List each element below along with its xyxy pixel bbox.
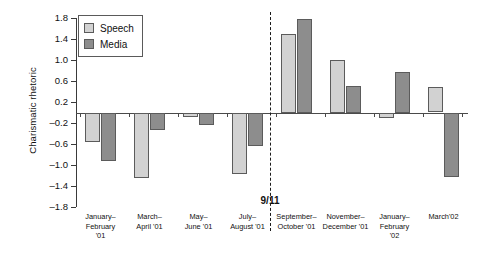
bar-speech-2 [183,113,198,117]
legend: Speech Media [78,15,143,57]
y-axis-tick: –0.6 [71,144,76,145]
y-axis-tick: 1.4 [71,39,76,40]
charismatic-rhetoric-bar-chart: Charismatic rhetoric 1.81.41.00.60.2–0.2… [0,0,478,265]
bar-media-7 [444,113,459,177]
x-axis-tick [227,113,228,117]
y-axis-tick: –1.4 [71,186,76,187]
y-axis-tick-label: –0.6 [50,138,69,149]
event-marker-label-911: 9/11 [261,195,280,206]
x-axis-tick [325,113,326,117]
x-axis-tick [462,113,463,117]
y-axis-tick: 1.0 [71,60,76,61]
y-axis-tick-label: 1.0 [55,54,68,65]
legend-label-media: Media [100,39,127,50]
y-axis-tick-label: 1.8 [55,12,68,23]
bar-speech-3 [232,113,247,175]
y-axis-tick-label: 0.2 [55,96,68,107]
bar-speech-4 [281,34,296,113]
bar-media-1 [150,113,165,130]
legend-item-media: Media [84,36,134,52]
y-axis-tick: –1.8 [71,207,76,208]
bar-speech-6 [379,113,394,118]
y-axis-tick-label: –1.0 [50,159,69,170]
x-axis-tick [276,113,277,117]
y-axis-tick-label: –1.4 [50,180,69,191]
y-axis-tick-label: 1.4 [55,33,68,44]
bar-speech-5 [330,60,345,113]
x-axis-tick [178,113,179,117]
bar-media-6 [395,72,410,113]
y-axis-tick: –1.0 [71,165,76,166]
y-axis-tick-label: –0.2 [50,117,69,128]
x-axis-tick [129,113,130,117]
legend-item-speech: Speech [84,20,134,36]
y-axis-tick: 0.2 [71,102,76,103]
legend-label-speech: Speech [100,23,134,34]
x-axis-tick [423,113,424,117]
y-axis-tick: 0.6 [71,81,76,82]
x-axis-tick [374,113,375,117]
bar-media-2 [199,113,214,126]
bar-media-3 [248,113,263,146]
x-axis-category-label: March'02 [413,212,474,222]
bar-media-5 [346,86,361,112]
bar-speech-1 [134,113,149,179]
x-axis-labels: January– February '01March– April '01May… [76,212,468,262]
x-axis-tick [80,113,81,117]
y-axis-tick-label: 0.6 [55,75,68,86]
bar-speech-0 [85,113,100,142]
bar-speech-7 [428,87,443,112]
y-axis-tick: 1.8 [71,18,76,19]
y-axis-title: Charismatic rhetoric [27,11,38,211]
bar-media-4 [297,19,312,113]
legend-swatch-media-icon [84,39,94,49]
y-axis-tick-label: –1.8 [50,201,69,212]
legend-swatch-speech-icon [84,23,94,33]
y-axis-tick: –0.2 [71,123,76,124]
bar-media-0 [101,113,116,162]
